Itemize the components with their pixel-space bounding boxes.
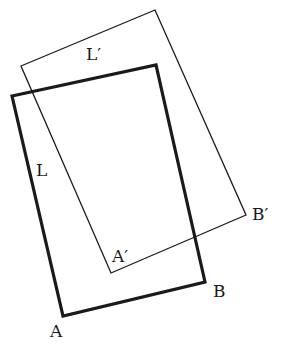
diagram-svg: L L′ A B A′ B′: [0, 0, 283, 344]
label-L: L: [36, 160, 47, 180]
label-A-prime: A′: [111, 246, 128, 266]
label-B-prime: B′: [252, 204, 268, 224]
rectangle-L-prime: [21, 10, 246, 273]
label-A: A: [49, 321, 63, 341]
label-L-prime: L′: [86, 44, 101, 64]
rectangle-L: [12, 65, 205, 316]
label-B: B: [213, 281, 226, 301]
diagram-canvas: L L′ A B A′ B′: [0, 0, 283, 344]
